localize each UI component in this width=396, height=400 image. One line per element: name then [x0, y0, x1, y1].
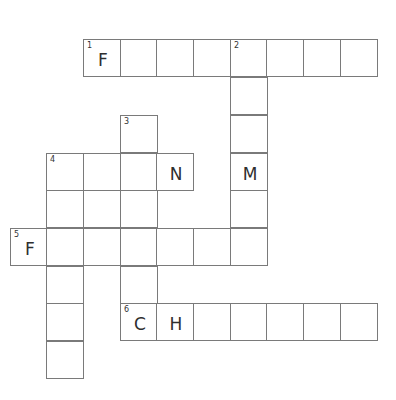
clue-number: 2	[234, 42, 239, 50]
crossword-cell[interactable]	[266, 39, 304, 77]
cell-letter: C	[121, 304, 157, 340]
crossword-cell[interactable]	[230, 190, 268, 228]
cell-letter: M	[231, 154, 267, 190]
cell-letter: H	[157, 304, 193, 340]
crossword-cell[interactable]	[120, 190, 158, 228]
crossword-cell[interactable]	[230, 115, 268, 153]
crossword-cell[interactable]	[266, 303, 304, 341]
crossword-cell[interactable]	[83, 153, 121, 191]
crossword-cell[interactable]	[230, 303, 268, 341]
cell-letter: F	[84, 40, 120, 76]
crossword-cell[interactable]: 6C	[120, 303, 158, 341]
crossword-cell[interactable]	[46, 266, 84, 304]
crossword-cell[interactable]	[83, 228, 121, 266]
crossword-cell[interactable]	[46, 303, 84, 341]
crossword-cell[interactable]: 4	[46, 153, 84, 191]
crossword-cell[interactable]: 2	[230, 39, 268, 77]
crossword-cell[interactable]: 5F	[10, 228, 48, 266]
crossword-cell[interactable]	[120, 153, 158, 191]
crossword-cell[interactable]	[193, 303, 231, 341]
crossword-cell[interactable]: H	[156, 303, 194, 341]
crossword-cell[interactable]	[120, 266, 158, 304]
crossword-cell[interactable]	[46, 228, 84, 266]
crossword-cell[interactable]	[156, 39, 194, 77]
cell-letter: N	[157, 154, 193, 190]
crossword-cell[interactable]	[46, 341, 84, 379]
crossword-cell[interactable]	[340, 303, 378, 341]
crossword-cell[interactable]	[156, 228, 194, 266]
crossword-grid: 1F234NM5F6CH	[0, 0, 396, 400]
crossword-cell[interactable]	[120, 228, 158, 266]
crossword-cell[interactable]	[193, 228, 231, 266]
crossword-cell[interactable]: M	[230, 153, 268, 191]
crossword-cell[interactable]	[303, 39, 341, 77]
crossword-cell[interactable]: 1F	[83, 39, 121, 77]
crossword-cell[interactable]	[120, 39, 158, 77]
crossword-cell[interactable]: 3	[120, 115, 158, 153]
crossword-cell[interactable]	[340, 39, 378, 77]
crossword-cell[interactable]	[46, 190, 84, 228]
crossword-cell[interactable]	[83, 190, 121, 228]
crossword-cell[interactable]	[193, 39, 231, 77]
clue-number: 4	[50, 156, 55, 164]
crossword-cell[interactable]: N	[156, 153, 194, 191]
clue-number: 3	[124, 118, 129, 126]
crossword-cell[interactable]	[230, 228, 268, 266]
crossword-cell[interactable]	[303, 303, 341, 341]
crossword-cell[interactable]	[230, 77, 268, 115]
cell-letter: F	[11, 229, 47, 265]
